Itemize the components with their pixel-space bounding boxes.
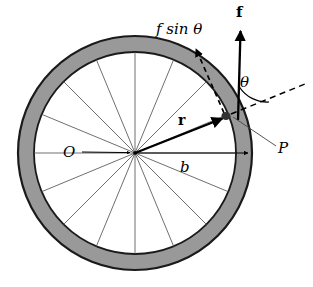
force-label-f: f <box>236 5 242 20</box>
hub-center <box>133 151 137 155</box>
contact-point-marker <box>221 112 230 120</box>
position-vector-label-r: r <box>178 113 185 127</box>
center-label-O: O <box>63 145 75 160</box>
angle-label-theta: θ <box>240 75 249 90</box>
wheel-torque-diagram: O b r f f sin θ θ P <box>0 0 313 287</box>
center-O-pointer <box>82 152 130 153</box>
point-label-P: P <box>278 141 288 156</box>
wheel-diagram-canvas <box>0 0 313 287</box>
radius-label-b: b <box>180 160 190 175</box>
tangential-component-label: f sin θ <box>156 22 202 37</box>
